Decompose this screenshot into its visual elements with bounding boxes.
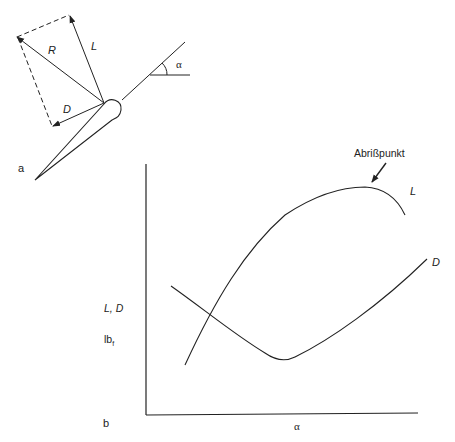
lift-curve-label: L (410, 185, 416, 197)
lift-label: L (91, 40, 97, 52)
lift-curve (185, 187, 405, 365)
aerofoil-shape (35, 100, 121, 180)
stall-point-arrow (372, 163, 386, 182)
x-axis-label: α (294, 420, 300, 432)
y-axis-unit: lbf (104, 333, 114, 347)
panel-a: α R L D a (17, 15, 190, 180)
panel-b: Abrißpunkt L D L, D lbf α b (103, 147, 440, 432)
angle-arc (162, 63, 167, 75)
dashed-line-top (17, 15, 69, 37)
stall-point-label: Abrißpunkt (354, 147, 405, 159)
panel-a-label: a (18, 162, 25, 174)
panel-b-label: b (103, 417, 109, 429)
chord-line (122, 42, 185, 100)
drag-curve (171, 259, 427, 360)
drag-curve-label: D (432, 256, 440, 268)
x-axis (146, 413, 418, 415)
y-axis-label: L, D (104, 302, 124, 314)
drag-vector (53, 103, 104, 126)
aerofoil-diagram: α R L D a Abrißpunkt L D L, D lbf α b (0, 0, 455, 442)
angle-alpha-label: α (176, 58, 182, 70)
resultant-label: R (48, 44, 56, 56)
drag-label: D (63, 103, 71, 115)
